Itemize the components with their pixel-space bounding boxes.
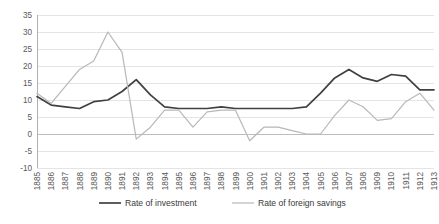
x-axis-tick-label: 1887	[61, 172, 70, 191]
x-axis-tick-label: 1908	[359, 172, 368, 191]
x-axis-tick-label: 1886	[47, 172, 56, 191]
series-line-1	[37, 69, 434, 108]
y-axis-tick-label: 5	[27, 113, 32, 122]
data-series	[37, 32, 434, 141]
x-axis-tick-label: 1891	[118, 172, 127, 191]
legend-label-2: Rate of foreign savings	[258, 198, 346, 208]
x-axis-tick-label: 1889	[90, 172, 99, 191]
chart-legend: Rate of investmentRate of foreign saving…	[99, 198, 346, 208]
gridlines	[37, 16, 434, 169]
x-axis-tick-labels: 1885188618871888188918901891189218931894…	[33, 172, 439, 191]
y-axis-tick-label: 0	[27, 130, 32, 139]
x-axis-tick-label: 1898	[217, 172, 226, 191]
y-axis-tick-labels: 35302520151050-5-10	[20, 11, 32, 173]
x-axis-tick-label: 1892	[132, 172, 141, 191]
x-axis-tick-label: 1902	[274, 172, 283, 191]
x-axis-tick-label: 1895	[175, 172, 184, 191]
x-axis-tick-label: 1900	[246, 172, 255, 191]
x-axis-tick-label: 1913	[430, 172, 439, 191]
x-axis-tick-label: 1888	[76, 172, 85, 191]
legend-label-1: Rate of investment	[125, 198, 197, 208]
x-axis-tick-label: 1885	[33, 172, 42, 191]
x-axis-tick-label: 1907	[345, 172, 354, 191]
y-axis-tick-label: 15	[23, 79, 33, 88]
y-axis-tick-label: -5	[25, 147, 33, 156]
y-axis-tick-label: 25	[23, 45, 33, 54]
x-axis-tick-label: 1905	[317, 172, 326, 191]
x-axis-tick-label: 1904	[302, 172, 311, 191]
y-axis-tick-label: -10	[20, 164, 32, 173]
x-axis-tick-label: 1890	[104, 172, 113, 191]
x-axis-tick-label: 1912	[416, 172, 425, 191]
chart-canvas: 35302520151050-5-10 18851886188718881889…	[0, 0, 439, 224]
x-axis-tick-label: 1901	[260, 172, 269, 191]
y-axis-tick-label: 20	[23, 62, 33, 71]
x-axis-tick-label: 1903	[288, 172, 297, 191]
x-axis-tick-label: 1897	[203, 172, 212, 191]
axes	[37, 15, 434, 168]
x-axis-tick-label: 1911	[402, 172, 411, 190]
y-axis-tick-label: 35	[23, 11, 33, 20]
series-line-2	[37, 32, 434, 141]
x-axis-tick-label: 1893	[146, 172, 155, 191]
x-axis-tick-label: 1909	[373, 172, 382, 191]
x-axis-tick-label: 1899	[232, 172, 241, 191]
x-axis-tick-label: 1894	[161, 172, 170, 191]
x-axis-tick-label: 1906	[331, 172, 340, 191]
y-axis-tick-label: 30	[23, 28, 33, 37]
line-chart: 35302520151050-5-10 18851886188718881889…	[0, 0, 439, 224]
x-axis-tick-label: 1896	[189, 172, 198, 191]
x-axis-tick-label: 1910	[387, 172, 396, 191]
y-axis-tick-label: 10	[23, 96, 33, 105]
